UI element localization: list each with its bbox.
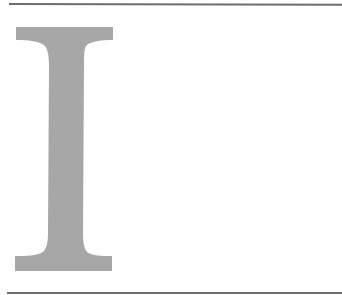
bottom-rule — [7, 292, 342, 294]
top-rule — [9, 3, 342, 6]
letter-i-shape — [15, 27, 113, 271]
drop-cap-glyph — [14, 26, 114, 272]
drop-cap: I — [14, 26, 114, 272]
